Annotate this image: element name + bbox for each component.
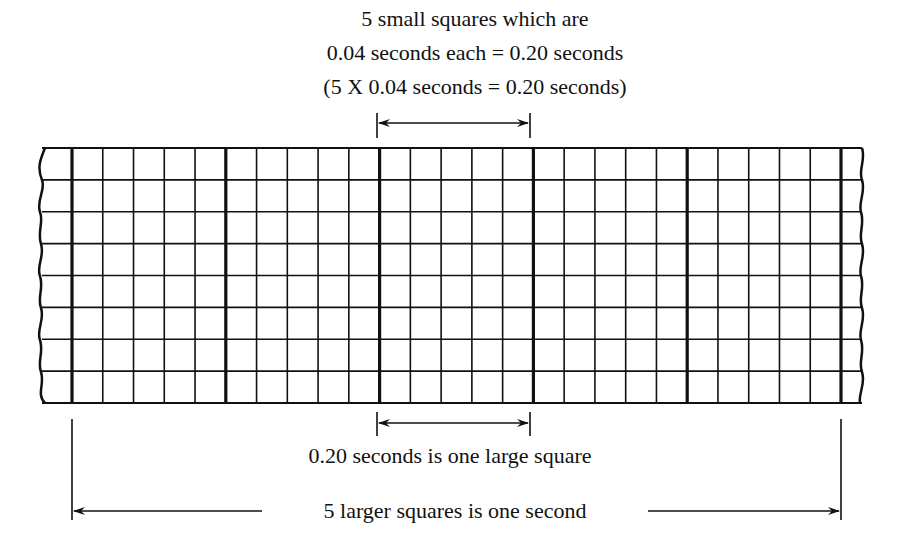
right-torn-edge [860, 148, 863, 403]
large-square-dimension-arrow [377, 412, 530, 436]
top-dimension-arrow [377, 113, 530, 138]
grid-paper [42, 148, 862, 403]
large-square-label: 0.20 seconds is one large square [200, 443, 700, 469]
one-second-label: 5 larger squares is one second [265, 498, 645, 524]
